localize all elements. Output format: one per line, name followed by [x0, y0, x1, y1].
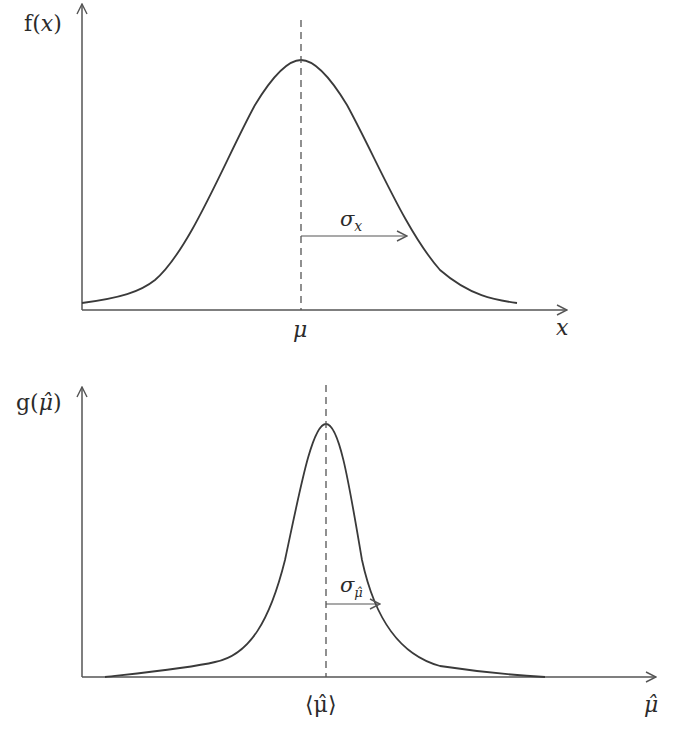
bottom-mean-label: ⟨μ̂⟩ [305, 692, 336, 717]
bottom-peaked-curve [105, 424, 545, 677]
bottom-panel: g(μ̂) μ̂ ⟨μ̂⟩ σμ̂ [16, 385, 658, 717]
top-gaussian-curve [82, 60, 517, 303]
top-panel: f(x) x μ σx [24, 4, 569, 342]
bottom-y-axis-label: g(μ̂) [16, 390, 62, 415]
diagram-canvas: f(x) x μ σx g(μ̂) μ̂ ⟨μ̂⟩ σμ̂ [0, 0, 677, 734]
top-mean-label: μ [293, 317, 307, 342]
top-x-axis-label: x [556, 315, 569, 340]
top-y-axis-label: f(x) [24, 11, 62, 36]
bottom-x-axis-label: μ̂ [644, 692, 658, 717]
bottom-sigma-label: σμ̂ [340, 573, 363, 600]
top-sigma-label: σx [340, 207, 362, 234]
